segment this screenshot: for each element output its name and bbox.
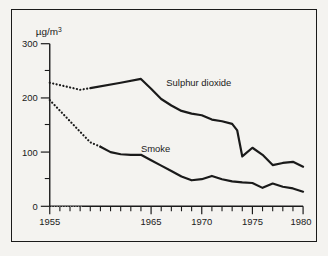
y-axis-unit-label: µg/m3	[36, 26, 62, 37]
svg-text:µg/m3: µg/m3	[36, 26, 62, 37]
y-axis: 300 200 100 0	[22, 38, 50, 212]
series-smoke-line	[100, 147, 303, 192]
x-tick-label-1975: 1975	[242, 216, 263, 227]
series-smoke-dotted-segment	[50, 100, 101, 147]
series-sulphur-dioxide-dotted-segment	[50, 83, 91, 90]
y-tick-label-100: 100	[22, 147, 38, 158]
chart-figure-frame: µg/m3 300 200 100 0	[11, 9, 317, 242]
x-tick-label-1955: 1955	[39, 216, 60, 227]
y-axis-unit-base: µg/m	[36, 26, 58, 37]
y-tick-label-300: 300	[22, 38, 38, 49]
y-tick-label-0: 0	[33, 201, 38, 212]
series-label-sulphur-dioxide: Sulphur dioxide	[166, 77, 231, 88]
series-label-smoke: Smoke	[141, 143, 170, 154]
x-axis: 1955 1965 1970 1975 1980	[39, 206, 311, 227]
x-tick-label-1970: 1970	[191, 216, 212, 227]
y-tick-label-200: 200	[22, 92, 38, 103]
x-tick-label-1965: 1965	[141, 216, 162, 227]
x-tick-label-1980: 1980	[291, 216, 312, 227]
pollution-line-chart: µg/m3 300 200 100 0	[12, 10, 316, 241]
y-axis-unit-superscript: 3	[58, 26, 62, 33]
